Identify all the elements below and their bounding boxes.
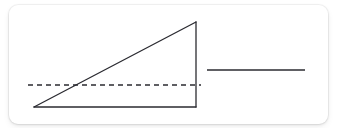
right-triangle xyxy=(34,22,196,107)
triangle-hypotenuse-line xyxy=(34,22,196,107)
diagram-figure xyxy=(0,0,338,128)
screenshot-root xyxy=(0,0,338,128)
